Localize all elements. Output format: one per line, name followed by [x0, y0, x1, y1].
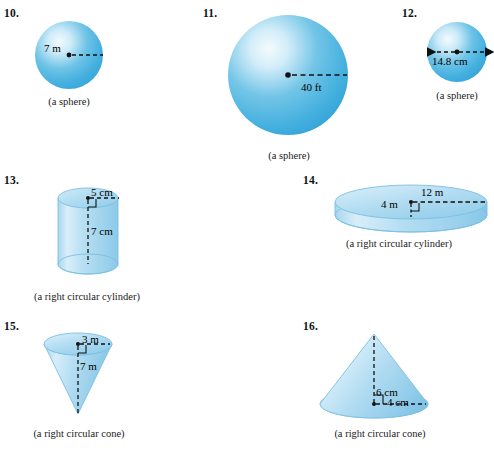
figure-caption: (a right circular cone): [33, 428, 124, 439]
figure-caption: (a right circular cone): [334, 428, 425, 439]
problem-number: 10.: [4, 7, 19, 19]
center-dot: [285, 72, 291, 78]
sphere-svg: [422, 19, 494, 89]
radius-label: 3 m: [82, 333, 99, 345]
figure-caption: (a sphere): [436, 90, 478, 101]
figure-caption: (a sphere): [48, 96, 90, 107]
cone-svg: [308, 326, 448, 426]
radius-label: 5 cm: [91, 186, 113, 198]
problem-number: 13.: [4, 174, 19, 186]
sphere-figure: [32, 18, 114, 96]
height-label: 7 cm: [91, 225, 113, 237]
center-dot: [455, 50, 460, 55]
sphere-svg: [32, 18, 114, 96]
figure-caption: (a right circular cylinder): [346, 238, 452, 249]
diameter-label: 14.8 cm: [432, 55, 467, 67]
cylinder-svg: [331, 184, 491, 240]
center-dot: [372, 402, 376, 406]
problem-number: 14.: [303, 174, 318, 186]
sphere-figure: [422, 19, 494, 89]
radius-label: 40 ft: [301, 81, 321, 93]
cone-figure: [308, 326, 448, 426]
sphere-figure: [226, 13, 354, 141]
radius-label: 7 m: [44, 42, 61, 54]
center-dot: [67, 53, 72, 58]
center-dot: [409, 200, 413, 204]
cylinder-figure: [331, 184, 491, 240]
height-label: 7 m: [80, 360, 97, 372]
problem-number: 11.: [203, 7, 217, 19]
height-label: 4 m: [381, 198, 398, 210]
radius-label: 12 m: [421, 186, 443, 198]
figure-caption: (a sphere): [268, 150, 310, 161]
problem-number: 12.: [402, 7, 417, 19]
figure-caption: (a right circular cylinder): [34, 291, 140, 302]
radius-label: 4 cm: [387, 396, 409, 408]
problem-number: 15.: [4, 320, 19, 332]
center-dot: [76, 342, 80, 346]
center-dot: [86, 196, 90, 200]
sphere-svg: [226, 13, 354, 141]
